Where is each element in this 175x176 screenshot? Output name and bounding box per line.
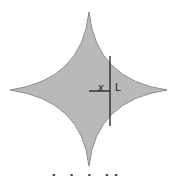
label-L: L [115,81,121,93]
label-x: x [98,81,104,93]
astroid-shape [10,12,167,166]
astroid-diagram [0,0,175,176]
caption-cut: ▪ ▪ ▪ ▪▪ [52,170,123,176]
